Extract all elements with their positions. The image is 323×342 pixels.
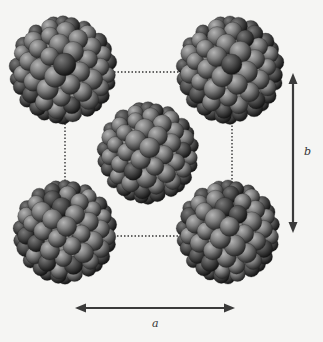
lattice-constant-b-label: b [304,145,311,158]
c60-molecule-center [97,102,198,205]
diagram-canvas [0,0,323,342]
c60-molecule-bottom-right [176,180,279,284]
arrow-b [289,73,298,233]
c60-molecule-bottom-left [13,180,117,284]
arrow-a [75,304,235,313]
c60-molecules [9,16,284,285]
lattice-constant-a-label: a [152,317,159,330]
c60-molecule-top-right [176,16,284,124]
c60-molecule-top-left [9,16,117,125]
fullerene-lattice-diagram: a b [0,0,323,342]
